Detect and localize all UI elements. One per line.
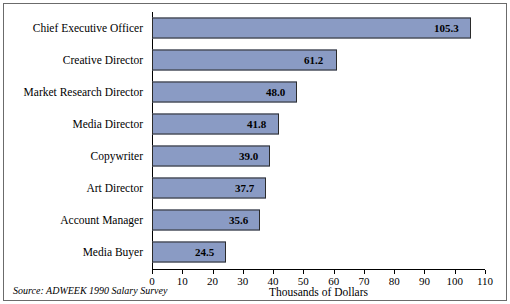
x-tick xyxy=(364,270,365,274)
category-label: Media Director xyxy=(72,118,143,130)
x-tick-label: 30 xyxy=(237,275,248,287)
source-note: Source: ADWEEK 1990 Salary Survey xyxy=(13,285,167,296)
bar[interactable] xyxy=(152,242,226,263)
x-tick xyxy=(213,270,214,274)
x-tick-label: 70 xyxy=(358,275,369,287)
x-tick xyxy=(152,270,153,274)
x-tick xyxy=(182,270,183,274)
x-tick xyxy=(424,270,425,274)
bar-value-label: 35.6 xyxy=(229,214,248,226)
bar-value-label: 24.5 xyxy=(195,246,214,258)
bar-value-label: 61.2 xyxy=(304,54,323,66)
x-axis-ticks: 0102030405060708090100110 xyxy=(152,270,485,288)
category-label: Chief Executive Officer xyxy=(33,22,143,34)
x-tick xyxy=(334,270,335,274)
bar-value-label: 105.3 xyxy=(434,22,459,34)
x-tick-label: 20 xyxy=(207,275,218,287)
bar-value-label: 39.0 xyxy=(239,150,258,162)
bar-value-label: 48.0 xyxy=(266,86,285,98)
x-tick-label: 80 xyxy=(389,275,400,287)
bar-value-label: 41.8 xyxy=(247,118,266,130)
category-label: Media Buyer xyxy=(83,246,143,258)
category-label: Creative Director xyxy=(63,54,143,66)
chart-frame: Source: ADWEEK 1990 Salary Survey Thousa… xyxy=(3,3,507,301)
bar-value-label: 37.7 xyxy=(235,182,254,194)
x-tick-label: 10 xyxy=(177,275,188,287)
category-label: Art Director xyxy=(86,182,143,194)
bar[interactable] xyxy=(152,18,471,39)
x-tick xyxy=(243,270,244,274)
x-tick-label: 100 xyxy=(446,275,463,287)
category-label: Copywriter xyxy=(91,150,143,162)
x-tick-label: 60 xyxy=(328,275,339,287)
x-tick-label: 40 xyxy=(268,275,279,287)
x-tick xyxy=(455,270,456,274)
x-tick xyxy=(485,270,486,274)
x-tick xyxy=(273,270,274,274)
plot-area: Chief Executive Officer 105.3 Creative D… xyxy=(152,12,485,269)
x-tick xyxy=(394,270,395,274)
category-label: Market Research Director xyxy=(24,86,143,98)
x-tick-label: 110 xyxy=(477,275,493,287)
x-tick-label: 50 xyxy=(298,275,309,287)
x-tick-label: 90 xyxy=(419,275,430,287)
x-tick-label: 0 xyxy=(149,275,155,287)
category-label: Account Manager xyxy=(60,214,143,226)
x-tick xyxy=(303,270,304,274)
